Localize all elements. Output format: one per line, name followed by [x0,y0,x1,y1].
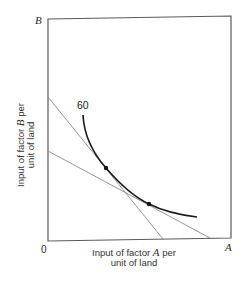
y-title-suffix: per [15,103,26,119]
isoquant-curve [83,115,197,217]
isoquant-label: 60 [77,99,89,111]
shallow-price-line [48,151,210,238]
x-axis-end-label: A [224,241,232,253]
y-axis-end-label: B [35,14,42,26]
tangency-point-steep [104,166,108,170]
tangency-point-shallow [147,202,151,206]
y-axis-title-line2: unit of land [25,122,36,168]
x-axis-title-line2: unit of land [111,257,157,268]
isoquant-diagram: 60 B A 0 Input of factor A per unit of l… [0,0,247,284]
x-title-suffix: per [160,247,176,258]
origin-label: 0 [41,244,47,255]
plot-frame [48,16,231,241]
